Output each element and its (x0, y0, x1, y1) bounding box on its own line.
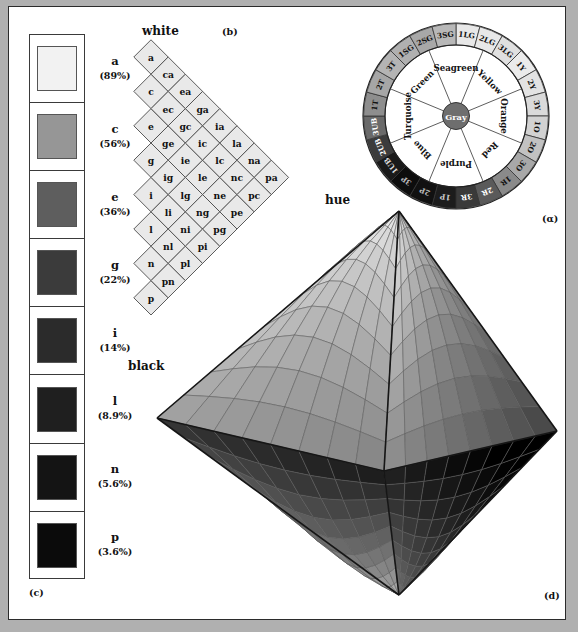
diamond-cell-label: c (148, 86, 154, 97)
diamond-cell-label: g (148, 155, 155, 166)
diamond-cell-label: ca (162, 69, 174, 80)
swatch-cell (30, 307, 84, 375)
solid-facet (360, 482, 387, 500)
swatch-cell (30, 444, 84, 512)
swatch-cell (30, 35, 84, 103)
diamond-cell-label: gc (179, 121, 191, 132)
swatch-percent-n: (5.6%) (87, 478, 143, 489)
diamond-cell-label: ne (214, 190, 227, 201)
swatch-chip (37, 114, 77, 159)
diamond-cell-label: pa (265, 172, 277, 183)
swatch-chip (37, 182, 77, 227)
diamond-cell-label: e (148, 121, 154, 132)
diamond-cell-label: lg (180, 190, 190, 201)
swatch-chip (37, 318, 77, 363)
wheel-ring-label: 1P (439, 192, 451, 202)
swatch-chip (37, 455, 77, 500)
wheel-sector-label: Purple (439, 159, 472, 169)
panel-c-swatch-column (29, 34, 85, 579)
panel-tag-d: (d) (544, 590, 560, 601)
diamond-cell-label: lc (215, 155, 224, 166)
solid-facet (404, 481, 424, 501)
swatch-chip (37, 387, 77, 432)
swatch-cell (30, 239, 84, 307)
swatch-label-n: n (91, 462, 139, 476)
swatch-chip (37, 523, 77, 568)
swatch-label-p: p (91, 530, 139, 544)
diamond-cell-label: ia (215, 121, 224, 132)
wheel-ring-label: 1O (532, 120, 543, 133)
figure-panel: a (89%) c (56%) e (36%) g (22%) i (14%) … (8, 6, 566, 620)
figure-root: a (89%) c (56%) e (36%) g (22%) i (14%) … (0, 0, 578, 632)
diamond-cell-label: na (248, 155, 261, 166)
panel-tag-c: (c) (29, 587, 44, 598)
diamond-cell-label: nc (231, 172, 244, 183)
swatch-cell (30, 375, 84, 443)
diamond-cell-label: le (198, 172, 207, 183)
diamond-cell-label: ec (162, 104, 174, 115)
swatch-chip (37, 46, 77, 91)
wheel-center-label: Gray (445, 112, 467, 122)
diamond-cell-label: i (149, 190, 153, 201)
diamond-cell-label: ic (198, 138, 207, 149)
panel-a-color-wheel: 1LG2LG3LG1Y2Y3Y1O2O3O1R2R3R1P2P3P1UB2UB3… (361, 21, 551, 211)
swatch-percent-l: (8.9%) (87, 410, 143, 421)
swatch-cell (30, 512, 84, 580)
diamond-cell-label: ig (163, 172, 173, 183)
wheel-ring-label: 1T (370, 99, 380, 111)
diamond-cell-label: la (232, 138, 241, 149)
swatch-percent-p: (3.6%) (87, 546, 143, 557)
wheel-sector-label: Seagreen (434, 63, 480, 73)
diamond-cell-label: a (148, 52, 154, 63)
swatch-label-l: l (91, 394, 139, 408)
wheel-ring-label: 3R (460, 192, 473, 203)
diamond-cell-label: ea (179, 86, 191, 97)
diamond-cell-label: ga (196, 104, 208, 115)
wheel-sector-label: Orange (499, 98, 509, 134)
swatch-cell (30, 171, 84, 239)
panel-d-color-solid (149, 203, 561, 603)
swatch-cell (30, 103, 84, 171)
diamond-cell-label: ie (181, 155, 190, 166)
diamond-cell-label: ge (162, 138, 174, 149)
solid-facet (386, 483, 405, 500)
swatch-chip (37, 250, 77, 295)
diamond-cell-label: pc (248, 190, 260, 201)
wheel-ring-label: 3Y (532, 100, 542, 112)
wheel-sector-label: Turquoise (403, 92, 413, 140)
